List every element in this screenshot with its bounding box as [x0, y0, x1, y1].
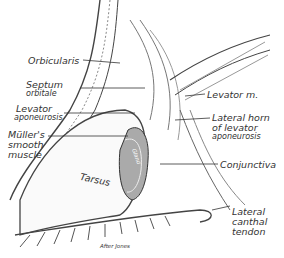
label-orbicularis: Orbicularis [28, 56, 79, 65]
label-lateral-canthal-3: tendon [232, 227, 265, 236]
label-septum-1: Septum [26, 80, 63, 89]
label-levator-apo-1: Levator [16, 104, 52, 113]
label-levator-apo-2: aponeurosis [14, 114, 63, 122]
label-conjunctiva: Conjunctiva [220, 160, 276, 169]
label-septum-2: orbitale [26, 90, 57, 98]
label-lateral-canthal-2: canthal [232, 217, 267, 226]
label-lateral-horn-1: Lateral horn [212, 113, 270, 122]
label-lateral-horn-2: of levator [212, 123, 258, 132]
label-levator-m: Levator m. [207, 90, 258, 99]
credit-after-jones: After Jones [100, 242, 130, 251]
label-mullers-3: muscle [8, 150, 42, 159]
label-mullers-2: smooth [8, 140, 44, 149]
label-mullers-1: Müller's [8, 130, 45, 139]
anatomy-figure: Orbicularis Septum orbitale Levator apon… [0, 0, 284, 258]
label-lateral-horn-3: aponeurosis [212, 133, 261, 141]
label-lateral-canthal-1: Lateral [232, 207, 265, 216]
